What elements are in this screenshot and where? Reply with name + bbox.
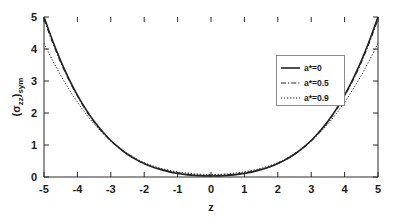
- legend-label-a-0: a*=0: [304, 63, 322, 73]
- x-tick-label: 3: [308, 183, 314, 195]
- y-tick-label: 3: [31, 75, 37, 87]
- y-tick-label: 2: [31, 107, 37, 119]
- y-tick-label: 4: [31, 43, 38, 55]
- x-tick-label: -1: [173, 183, 183, 195]
- y-axis-title-base: (σ: [10, 105, 22, 117]
- x-tick-label: -4: [73, 183, 84, 195]
- legend: a*=0a*=0.5a*=0.9: [277, 56, 345, 106]
- x-tick-label: 2: [275, 183, 281, 195]
- legend-label-a-0-9: a*=0.9: [304, 93, 329, 103]
- chart-canvas: -5-4-3-2-1012345 012345 z (σzz)sym a*=0a…: [0, 0, 400, 218]
- y-tick-label: 5: [31, 11, 37, 23]
- x-tick-label: -3: [106, 183, 116, 195]
- figure-container: -5-4-3-2-1012345 012345 z (σzz)sym a*=0a…: [0, 0, 400, 218]
- x-axis-title: z: [208, 201, 214, 213]
- y-axis-title-sub-zz: zz: [16, 97, 25, 105]
- x-tick-label: 1: [241, 183, 247, 195]
- legend-label-a-0-5: a*=0.5: [304, 78, 329, 88]
- x-tick-label: 0: [208, 183, 214, 195]
- y-tick-label: 0: [31, 171, 37, 183]
- x-tick-label: 4: [342, 183, 349, 195]
- y-axis-title-sub-sym: sym: [16, 78, 25, 94]
- x-tick-label: -5: [39, 183, 49, 195]
- x-tick-label: -2: [139, 183, 149, 195]
- x-tick-label: 5: [375, 183, 381, 195]
- y-tick-label: 1: [31, 139, 37, 151]
